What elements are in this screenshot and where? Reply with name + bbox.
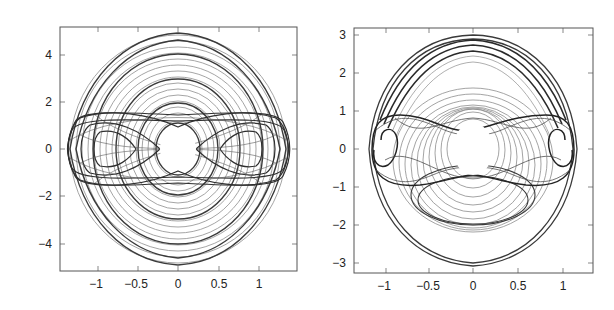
left-xtick-1: 1 [256, 277, 263, 291]
left-ytick-4: 4 [45, 48, 52, 62]
right-xtick-1: 1 [560, 279, 567, 293]
left-trajectory [68, 33, 290, 265]
right-trajectory [369, 35, 577, 266]
right-xtick-0: 0 [470, 279, 477, 293]
left-xtick-0: 0 [175, 277, 182, 291]
right-ytick-3: 3 [339, 28, 346, 42]
left-y-tick-labels: 4 2 0 −2 −4 [38, 48, 52, 251]
left-ytick-0: 0 [45, 142, 52, 156]
left-xtick-neg0.5: −0.5 [124, 277, 148, 291]
left-ytick-2: 2 [45, 95, 52, 109]
right-x-tick-labels: −1 −0.5 0 0.5 1 [377, 279, 567, 293]
right-ytick-1: 1 [339, 104, 346, 118]
right-xtick-neg0.5: −0.5 [416, 279, 440, 293]
left-ytick-neg2: −2 [38, 189, 52, 203]
right-ytick-0: 0 [339, 142, 346, 156]
right-y-tick-labels: 3 2 1 0 −1 −2 −3 [332, 28, 346, 270]
right-ytick-neg1: −1 [332, 180, 346, 194]
left-ytick-neg4: −4 [38, 237, 52, 251]
right-ytick-2: 2 [339, 66, 346, 80]
right-ytick-neg2: −2 [332, 218, 346, 232]
left-plot: 4 2 0 −2 −4 −1 −0.5 0 0.5 1 [38, 27, 297, 291]
left-x-tick-labels: −1 −0.5 0 0.5 1 [89, 277, 263, 291]
right-ytick-neg3: −3 [332, 256, 346, 270]
right-xtick-neg1: −1 [377, 279, 391, 293]
left-xtick-neg1: −1 [89, 277, 103, 291]
right-plot: 3 2 1 0 −1 −2 −3 −1 −0.5 0 0.5 1 [332, 28, 593, 293]
right-xtick-0.5: 0.5 [510, 279, 527, 293]
figure: 4 2 0 −2 −4 −1 −0.5 0 0.5 1 [0, 0, 614, 310]
left-xtick-0.5: 0.5 [211, 277, 228, 291]
